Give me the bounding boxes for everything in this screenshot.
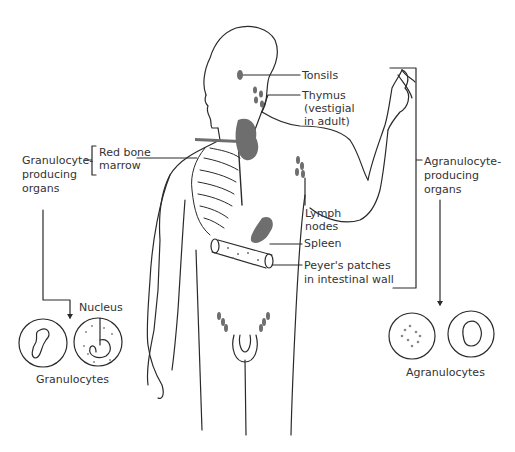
left-arm-inner <box>172 200 185 370</box>
label-agranulocyte-organs-3: organs <box>424 183 462 196</box>
label-agranulocyte-organs-2: producing <box>424 169 479 182</box>
arrowhead-granulocyte <box>67 314 73 319</box>
granulocyte-cell-2 <box>74 318 122 366</box>
label-agranulocyte-organs: Agranulocyte- <box>424 155 501 168</box>
agranulocyte-cell-1 <box>389 313 435 359</box>
granulocyte-arrow-line <box>43 210 70 318</box>
label-lymph-nodes: Lymph <box>305 207 341 220</box>
label-granulocyte-organs-2: producing <box>22 168 77 181</box>
label-red-bone-marrow: Red bone <box>99 146 151 159</box>
label-red-bone-marrow-2: marrow <box>99 159 141 172</box>
label-spleen: Spleen <box>304 237 342 250</box>
label-thymus: Thymus <box>302 89 346 102</box>
label-nucleus: Nucleus <box>79 301 123 314</box>
label-agranulocytes: Agranulocytes <box>406 366 485 379</box>
label-lymph-nodes-2: nodes <box>305 220 338 233</box>
label-peyers-patches: Peyer's patches <box>304 259 391 272</box>
agranulocyte-cell-2 <box>448 311 494 357</box>
granule-dots <box>83 325 421 363</box>
tonsil-organ <box>237 70 243 80</box>
label-granulocyte-organs-3: organs <box>22 182 60 195</box>
lymph-node-clusters <box>217 87 305 333</box>
label-thymus-3: in adult) <box>304 115 350 128</box>
label-granulocytes: Granulocytes <box>36 373 109 386</box>
intestine-segment <box>212 240 272 268</box>
left-leg-outer <box>196 250 202 430</box>
neck-shoulder-left <box>147 128 220 385</box>
label-peyers-patches-2: in intestinal wall <box>304 273 394 286</box>
spleen-organ <box>251 217 273 243</box>
right-arm-outer <box>368 70 402 180</box>
arrowhead-agranulocyte <box>437 301 443 306</box>
granulocyte-cell-1 <box>19 319 67 367</box>
ribcage <box>192 140 242 235</box>
label-tonsils: Tonsils <box>302 69 338 82</box>
peyer-patch-dots <box>227 247 259 261</box>
torso-right <box>291 195 305 435</box>
marrow-clavicle <box>195 138 240 143</box>
groin <box>233 335 258 362</box>
right-hand <box>388 70 409 130</box>
face-profile <box>205 95 218 128</box>
agranulocyte-bracket <box>390 68 422 288</box>
label-thymus-2: (vestigial <box>304 102 355 115</box>
label-granulocyte-organs: Granulocyte- <box>22 154 93 167</box>
center-line <box>245 360 246 435</box>
